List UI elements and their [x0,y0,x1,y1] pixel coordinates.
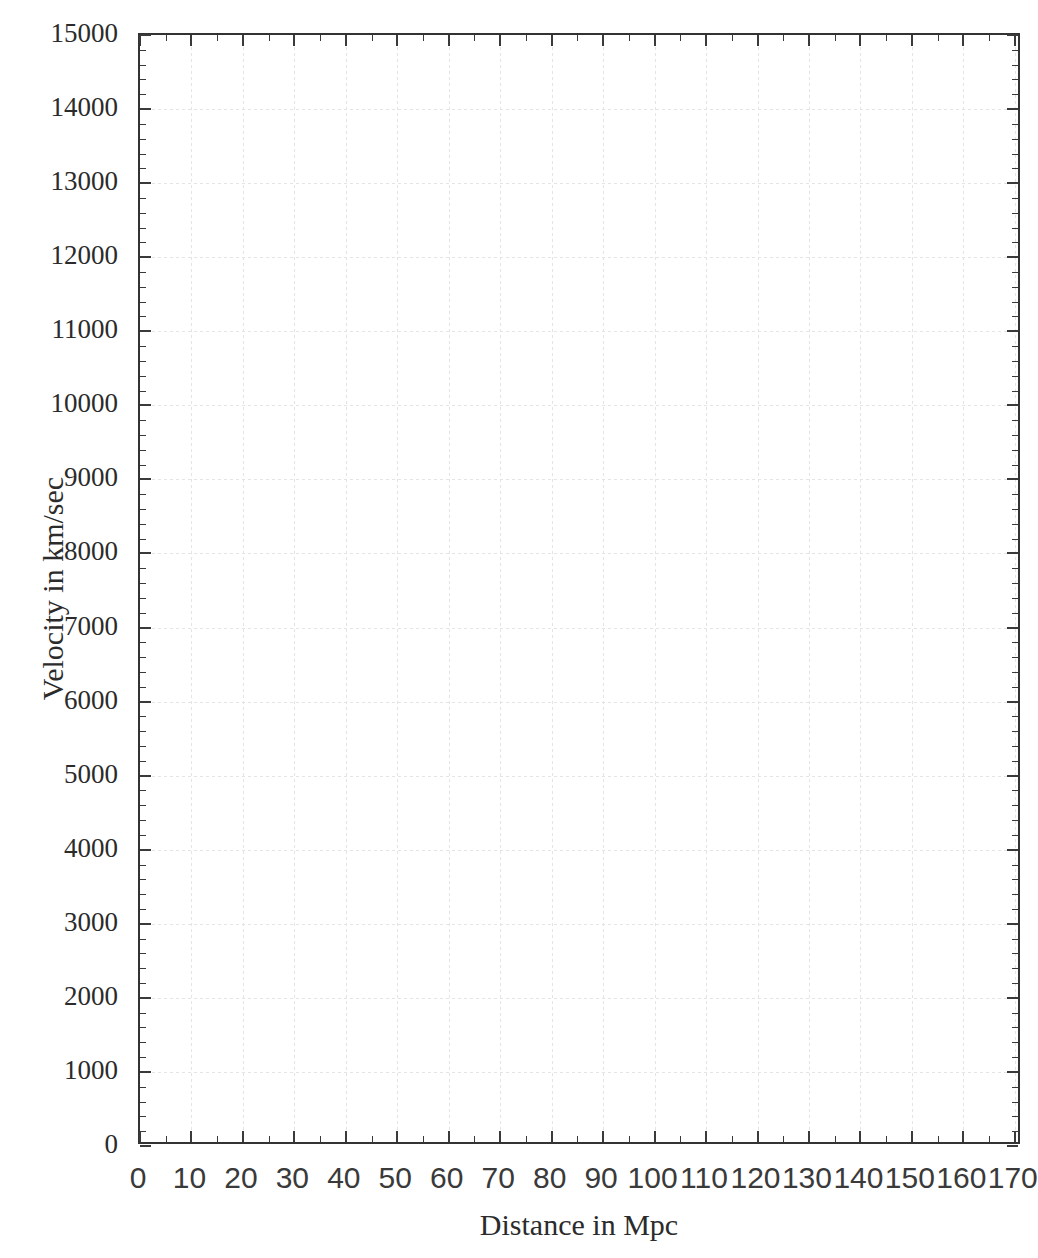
chart-page: 0100020003000400050006000700080009000100… [0,0,1038,1258]
x-tick-label: 160 [936,1163,986,1193]
y-axis-title: Velocity in km/sec [38,33,78,1144]
x-tick-label: 50 [379,1163,412,1193]
x-axis-tick-labels: 0102030405060708090100110120130140150160… [0,0,1038,1258]
x-tick-label: 70 [482,1163,515,1193]
x-tick-label: 110 [680,1163,728,1193]
x-tick-label: 90 [584,1163,617,1193]
x-tick-label: 60 [430,1163,463,1193]
x-tick-label: 130 [782,1163,832,1193]
x-axis-title: Distance in Mpc [138,1210,1020,1240]
x-tick-label: 140 [833,1163,883,1193]
x-tick-label: 100 [628,1163,678,1193]
x-tick-label: 120 [730,1163,780,1193]
x-tick-label: 30 [276,1163,309,1193]
x-tick-label: 20 [224,1163,257,1193]
x-tick-label: 10 [173,1163,206,1193]
x-tick-label: 0 [130,1163,147,1193]
x-tick-label: 40 [327,1163,360,1193]
x-tick-label: 80 [533,1163,566,1193]
x-tick-label: 150 [885,1163,935,1193]
x-tick-label: 170 [988,1163,1038,1193]
